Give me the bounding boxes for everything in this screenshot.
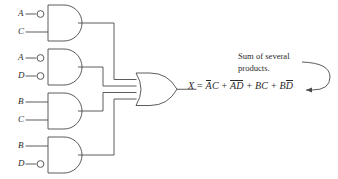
input-label-g3-c: C (18, 115, 24, 124)
or-gate-body (136, 73, 177, 106)
equation-equals: = (197, 80, 203, 91)
annotation-line-1: Sum of several (238, 51, 290, 63)
annotation-arrow-curve (302, 62, 330, 90)
equation-term1-b: C (212, 80, 219, 91)
input-label-g1-a: A (18, 9, 24, 18)
and-gate-2-body (48, 49, 82, 85)
annotation-text: Sum of several products. (238, 51, 290, 74)
input-label-g4-d: D (18, 159, 25, 168)
and-gate-2 (26, 49, 136, 86)
equation-plus-1: + (221, 80, 227, 91)
equation-term1-a: A (206, 80, 212, 91)
input-label-g2-d: D (18, 71, 25, 80)
equation-output-var: X (188, 80, 194, 91)
equation-term3-b: C (261, 80, 268, 91)
equation-term4-b: D (286, 80, 293, 91)
input-label-g2-a: A (18, 53, 24, 62)
and-gate-1-inversion-bubble-a (37, 11, 44, 18)
input-label-g3-b: B (18, 97, 24, 106)
equation-plus-2: + (246, 80, 252, 91)
and-gate-1-body (48, 5, 82, 41)
and-gate-4-output-wire (79, 99, 137, 155)
and-gate-3-body (48, 93, 82, 129)
and-gate-2-inversion-bubble-a (37, 55, 44, 62)
and-gate-4-inversion-bubble-d (37, 161, 44, 168)
input-label-g4-b: B (18, 141, 24, 150)
and-gate-4-body (48, 137, 82, 173)
equation-plus-3: + (271, 80, 277, 91)
output-equation: X = AC + AD + BC + BD (188, 80, 293, 91)
equation-term2-b: D (236, 80, 243, 91)
and-gate-3 (26, 93, 136, 130)
and-gate-2-inversion-bubble-d (37, 73, 44, 80)
and-gate-1-output-wire (79, 23, 137, 80)
input-label-g1-c: C (18, 27, 24, 36)
and-gate-2-output-wire (79, 67, 137, 86)
or-gate (136, 73, 196, 106)
annotation-arrow-head (306, 88, 312, 93)
annotation-line-2: products. (238, 63, 290, 75)
annotation-arrow (302, 62, 330, 92)
logic-diagram-canvas: A C A D B C B D X = AC + AD + BC + BD Su… (0, 0, 338, 179)
and-gate-3-output-wire (79, 93, 137, 112)
